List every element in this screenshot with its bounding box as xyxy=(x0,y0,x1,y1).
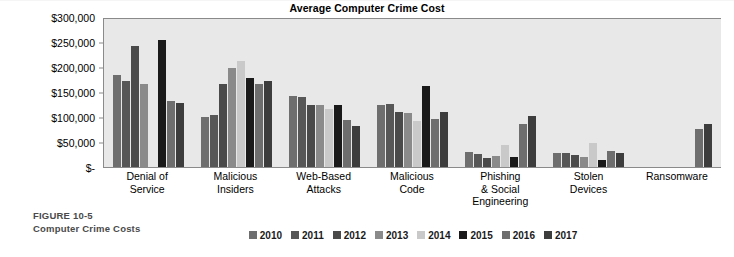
legend-item: 2011 xyxy=(291,230,324,241)
bar xyxy=(580,157,588,167)
bar xyxy=(440,112,448,167)
bar-group xyxy=(633,19,721,167)
bar xyxy=(510,157,518,168)
legend-label: 2016 xyxy=(513,230,535,241)
bar xyxy=(571,155,579,168)
bar xyxy=(167,101,175,167)
bar xyxy=(607,151,615,167)
legend-item: 2013 xyxy=(375,230,408,241)
bar xyxy=(289,96,297,168)
y-tick-label: $150,000 xyxy=(51,87,95,99)
y-axis: $-$50,000$100,000$150,000$200,000$250,00… xyxy=(0,18,99,168)
bar-group xyxy=(104,19,192,167)
figure-name: Computer Crime Costs xyxy=(33,222,203,235)
bar xyxy=(589,143,597,167)
bar xyxy=(201,117,209,168)
bar xyxy=(553,153,561,167)
y-tick-label: $200,000 xyxy=(51,62,95,74)
y-tick-label: $300,000 xyxy=(51,12,95,24)
legend-swatch-icon xyxy=(333,231,341,239)
x-axis-category-label: MaliciousInsiders xyxy=(191,170,279,216)
chart-title: Average Computer Crime Cost xyxy=(0,2,734,14)
x-axis-category-label: Web-BasedAttacks xyxy=(280,170,368,216)
bar xyxy=(210,115,218,168)
legend-swatch-icon xyxy=(249,231,257,239)
x-axis-category-line: Insiders xyxy=(191,183,279,196)
bar xyxy=(158,40,166,168)
x-axis-category-line: & Social xyxy=(456,183,544,196)
bar xyxy=(492,156,500,167)
legend-item: 2015 xyxy=(459,230,492,241)
legend-label: 2011 xyxy=(302,230,324,241)
legend-item: 2017 xyxy=(544,230,577,241)
bar xyxy=(395,112,403,168)
bar xyxy=(131,46,139,168)
y-tick-label: $250,000 xyxy=(51,37,95,49)
legend-swatch-icon xyxy=(459,231,467,239)
y-tick-label: $- xyxy=(86,162,95,174)
legend-label: 2014 xyxy=(428,230,450,241)
bar xyxy=(237,61,245,167)
bar xyxy=(255,84,263,167)
x-axis-category-line: Phishing xyxy=(456,170,544,183)
figure-number: FIGURE 10-5 xyxy=(33,209,203,222)
plot-area xyxy=(103,18,721,168)
legend-item: 2014 xyxy=(417,230,450,241)
bar xyxy=(316,105,324,167)
x-axis-category-line: Ransomware xyxy=(633,170,721,183)
legend-label: 2010 xyxy=(260,230,282,241)
legend-swatch-icon xyxy=(417,231,425,239)
legend-label: 2017 xyxy=(555,230,577,241)
x-axis-category-line: Service xyxy=(103,183,191,196)
bar-group xyxy=(192,19,280,167)
bar xyxy=(431,119,439,168)
bar xyxy=(264,81,272,168)
bar xyxy=(528,116,536,167)
x-axis-category-label: Ransomware xyxy=(633,170,721,216)
legend-item: 2010 xyxy=(249,230,282,241)
y-tick-label: $100,000 xyxy=(51,112,95,124)
x-axis-category-line: Code xyxy=(368,183,456,196)
bar xyxy=(219,84,227,167)
bar-group xyxy=(545,19,633,167)
bar xyxy=(501,145,509,167)
bar xyxy=(113,75,121,168)
legend-swatch-icon xyxy=(291,231,299,239)
bar xyxy=(704,124,712,167)
bar xyxy=(519,124,527,168)
x-axis-category-line: Engineering xyxy=(456,195,544,208)
bar xyxy=(562,153,570,167)
legend-item: 2016 xyxy=(502,230,535,241)
bar xyxy=(598,160,606,167)
bar-group xyxy=(368,19,456,167)
bar xyxy=(246,78,254,168)
x-axis-category-line: Web-Based xyxy=(280,170,368,183)
bar xyxy=(386,104,394,167)
bar xyxy=(377,105,385,167)
x-axis-category-label: Phishing& SocialEngineering xyxy=(456,170,544,216)
bars-layer xyxy=(104,19,721,167)
legend-label: 2013 xyxy=(386,230,408,241)
legend-item: 2012 xyxy=(333,230,366,241)
legend-swatch-icon xyxy=(502,231,510,239)
bar xyxy=(334,105,342,167)
chart-legend: 20102011201220132014201520162017 xyxy=(213,227,613,243)
x-axis-category-line: Stolen xyxy=(544,170,632,183)
bar xyxy=(695,129,703,168)
x-axis-category-label: MaliciousCode xyxy=(368,170,456,216)
x-axis-category-line: Attacks xyxy=(280,183,368,196)
bar xyxy=(616,153,624,168)
bar xyxy=(122,81,130,167)
x-axis-category-line: Devices xyxy=(544,183,632,196)
bar xyxy=(140,84,148,167)
figure-caption: FIGURE 10-5 Computer Crime Costs xyxy=(33,209,203,235)
bar xyxy=(176,103,184,167)
legend-label: 2012 xyxy=(344,230,366,241)
bar xyxy=(307,105,315,168)
bar xyxy=(228,68,236,167)
bar xyxy=(343,120,351,168)
bar xyxy=(352,126,360,168)
bar xyxy=(413,121,421,168)
bar xyxy=(422,86,430,168)
bar xyxy=(325,109,333,167)
